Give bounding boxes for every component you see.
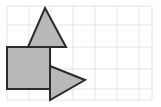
figure-canvas	[0, 0, 161, 107]
shape-square	[7, 47, 50, 89]
shapes-diagram	[0, 0, 161, 107]
